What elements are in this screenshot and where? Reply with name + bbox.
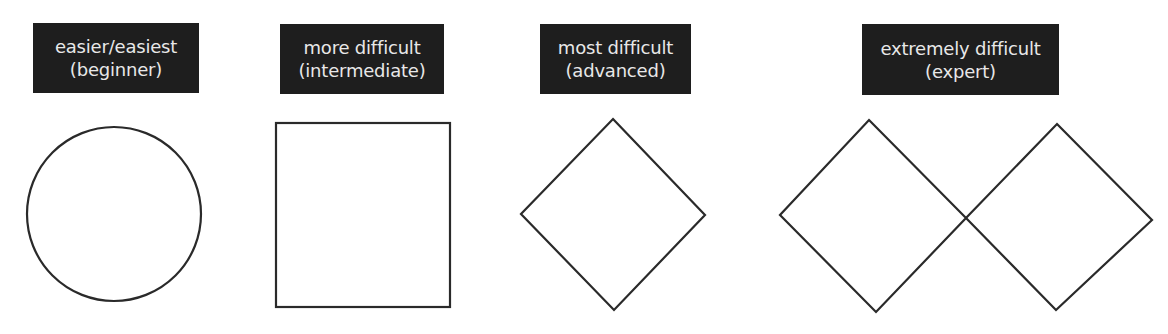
square-icon (276, 123, 450, 307)
double-diamond-icon (780, 120, 1152, 312)
double-diamond-right-icon (966, 124, 1152, 310)
double-diamond-left-icon (780, 120, 966, 312)
circle-icon (27, 127, 201, 301)
difficulty-symbols (0, 0, 1168, 334)
diamond-icon (521, 119, 705, 310)
